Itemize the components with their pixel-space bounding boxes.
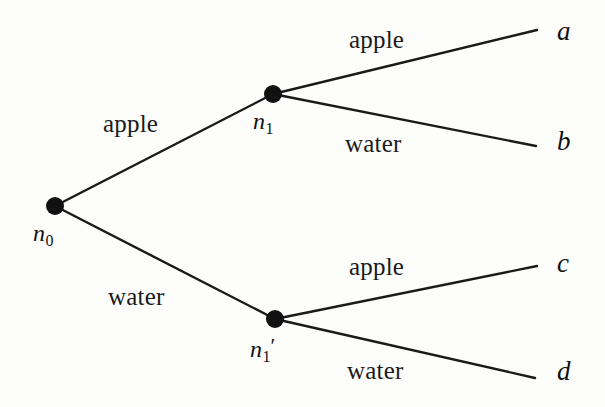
- node-label-n0: n0: [33, 220, 54, 250]
- edge-line-n0-n1p: [55, 206, 275, 319]
- edge-line-n1-a: [273, 30, 537, 94]
- node-dot-n1p: [266, 310, 284, 328]
- edge-line-n1p-d: [275, 319, 535, 378]
- edge-label-n0-n1: apple: [103, 110, 158, 138]
- edge-label-n1p-c: apple: [349, 253, 404, 281]
- edge-line-n0-n1: [55, 94, 273, 206]
- edge-label-n1-a: apple: [349, 26, 404, 54]
- leaf-label-c: c: [557, 248, 569, 279]
- edge-line-n1-b: [273, 94, 536, 146]
- decision-tree-figure: applewaterapplewaterapplewater n0n1n1′ a…: [0, 0, 605, 407]
- leaf-label-a: a: [557, 16, 571, 47]
- node-label-n1: n1: [253, 108, 274, 138]
- node-label-n1p: n1′: [250, 333, 275, 366]
- leaf-label-b: b: [557, 126, 571, 157]
- node-dot-n1: [264, 85, 282, 103]
- node-dot-group: [46, 85, 284, 328]
- edge-label-n1-b: water: [345, 130, 402, 158]
- tree-graphics: [0, 0, 605, 407]
- leaf-label-d: d: [557, 356, 571, 387]
- edge-label-n0-n1p: water: [108, 283, 165, 311]
- edge-line-n1p-c: [275, 266, 537, 319]
- edge-line-group: [55, 30, 537, 378]
- node-dot-n0: [46, 197, 64, 215]
- edge-label-n1p-d: water: [347, 357, 404, 385]
